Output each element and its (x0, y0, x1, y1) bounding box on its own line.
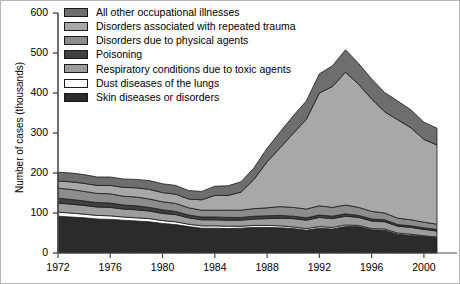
chart-legend: All other occupational illnessesDisorder… (64, 5, 364, 104)
y-tick-label: 200 (14, 166, 48, 178)
legend-item: Skin diseases or disorders (64, 90, 364, 104)
legend-swatch-icon (64, 22, 88, 31)
y-tick-label: 100 (14, 206, 48, 218)
x-tick-label: 1980 (143, 261, 183, 273)
legend-item-label: Dust diseases of the lungs (96, 78, 219, 89)
x-tick-label: 1992 (299, 261, 339, 273)
legend-swatch-icon (64, 79, 88, 88)
y-tick-label: 600 (14, 6, 48, 18)
legend-swatch-icon (64, 8, 88, 17)
chart-root: Number of cases (thousands) 010020030040… (0, 0, 460, 284)
legend-item-label: Disorders associated with repeated traum… (96, 21, 296, 32)
y-tick-label: 400 (14, 86, 48, 98)
legend-item-label: Disorders due to physical agents (96, 35, 248, 46)
legend-item: Respiratory conditions due to toxic agen… (64, 62, 364, 76)
legend-item-label: Skin diseases or disorders (96, 92, 219, 103)
legend-item: Disorders due to physical agents (64, 33, 364, 47)
legend-item: Dust diseases of the lungs (64, 76, 364, 90)
x-tick-label: 2000 (404, 261, 444, 273)
legend-swatch-icon (64, 50, 88, 59)
legend-item-label: Poisoning (96, 49, 142, 60)
x-tick-label: 1972 (38, 261, 78, 273)
legend-swatch-icon (64, 64, 88, 73)
legend-item: Poisoning (64, 48, 364, 62)
legend-item-label: Respiratory conditions due to toxic agen… (96, 64, 291, 75)
x-tick-label: 1976 (90, 261, 130, 273)
x-tick-label: 1984 (195, 261, 235, 273)
x-tick-label: 1988 (247, 261, 287, 273)
y-tick-label: 500 (14, 46, 48, 58)
legend-item: All other occupational illnesses (64, 5, 364, 19)
legend-swatch-icon (64, 93, 88, 102)
legend-item-label: All other occupational illnesses (96, 7, 240, 18)
legend-swatch-icon (64, 36, 88, 45)
y-tick-label: 0 (14, 246, 48, 258)
y-tick-label: 300 (14, 126, 48, 138)
x-tick-label: 1996 (352, 261, 392, 273)
legend-item: Disorders associated with repeated traum… (64, 19, 364, 33)
